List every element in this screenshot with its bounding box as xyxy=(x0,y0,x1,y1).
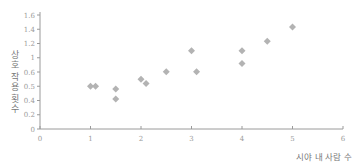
data-point xyxy=(112,86,119,93)
data-point xyxy=(289,24,296,31)
data-points xyxy=(87,24,296,103)
y-tick-label: 1.2 xyxy=(24,40,35,48)
y-tick-label: 1 xyxy=(31,54,35,62)
y-tick-label: 0.5 xyxy=(24,83,35,91)
data-point xyxy=(92,83,99,90)
scatter-chart: 상호작용횟수 00.20.40.50.611.21.41.6 0123456 시… xyxy=(0,0,360,168)
x-axis-label: 시야 내 사람 수 xyxy=(296,152,352,162)
x-tick-label: 0 xyxy=(38,135,42,143)
y-axis-label-char: 상 xyxy=(11,50,19,60)
y-axis-label-char: 수 xyxy=(11,104,19,114)
data-point xyxy=(163,68,170,75)
y-axis: 00.20.40.50.611.21.41.6 xyxy=(24,12,40,134)
y-axis-label-char: 횟 xyxy=(11,93,19,104)
x-axis: 0123456 xyxy=(38,126,346,143)
data-point xyxy=(188,47,195,54)
y-axis-label-char: 호 xyxy=(11,60,19,70)
data-point xyxy=(239,60,246,67)
y-tick-label: 1.6 xyxy=(24,12,36,20)
y-tick-label: 1.4 xyxy=(24,26,36,34)
data-point xyxy=(193,68,200,75)
y-axis-label-char: 용 xyxy=(11,82,19,92)
data-point xyxy=(138,76,145,83)
data-point xyxy=(264,38,271,45)
x-tick-label: 5 xyxy=(290,135,294,143)
x-tick-label: 3 xyxy=(189,135,193,143)
x-tick-label: 2 xyxy=(139,135,143,143)
y-tick-label: 0.2 xyxy=(24,111,35,119)
x-tick-label: 1 xyxy=(88,135,92,143)
data-point xyxy=(143,80,150,87)
y-axis-label: 상호작용횟수 xyxy=(11,50,19,114)
x-tick-label: 6 xyxy=(341,135,346,143)
data-point xyxy=(239,47,246,54)
y-tick-label: 0.4 xyxy=(24,97,36,105)
y-axis-label-char: 작 xyxy=(11,72,19,82)
data-point xyxy=(112,96,119,103)
y-tick-label: 0 xyxy=(31,126,35,134)
x-tick-label: 4 xyxy=(240,135,245,143)
y-tick-label: 0.6 xyxy=(24,69,36,77)
